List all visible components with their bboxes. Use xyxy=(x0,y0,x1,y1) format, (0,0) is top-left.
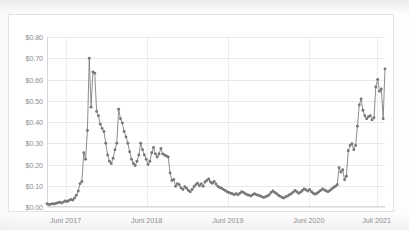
data-point xyxy=(373,116,376,119)
data-point xyxy=(82,151,85,154)
y-tick-label: $0.10 xyxy=(9,181,43,190)
y-tick-label: $0.70 xyxy=(9,54,43,63)
data-point xyxy=(134,164,137,167)
data-point xyxy=(139,142,142,145)
data-point xyxy=(358,104,361,107)
data-point xyxy=(80,180,83,183)
data-point xyxy=(119,117,122,120)
data-point xyxy=(178,183,181,186)
data-point xyxy=(354,144,357,147)
data-point xyxy=(196,182,199,185)
data-point xyxy=(356,125,359,128)
data-point xyxy=(169,172,172,175)
data-point xyxy=(350,142,353,145)
data-point xyxy=(152,146,155,149)
data-point xyxy=(207,178,210,181)
data-point xyxy=(99,123,102,126)
data-point xyxy=(384,67,387,70)
data-point xyxy=(181,188,184,191)
data-point xyxy=(369,114,372,117)
data-point xyxy=(126,142,129,145)
data-point xyxy=(88,57,91,60)
data-point xyxy=(145,158,148,161)
y-axis-labels: $0.80$0.70$0.60$0.50$0.40$0.30$0.20$0.10… xyxy=(9,37,43,207)
x-tick-label: Juni 2019 xyxy=(212,216,243,225)
x-tick-label: Juni 2020 xyxy=(293,216,324,225)
y-tick-label: $0.20 xyxy=(9,160,43,169)
data-point xyxy=(167,156,170,159)
data-point xyxy=(202,185,205,188)
data-point xyxy=(110,162,113,165)
data-point xyxy=(172,178,175,181)
data-point xyxy=(148,160,151,163)
chart-screenshot: $0.80$0.70$0.60$0.50$0.40$0.30$0.20$0.10… xyxy=(0,0,409,230)
data-point xyxy=(86,129,89,132)
data-point xyxy=(143,153,146,156)
data-point xyxy=(137,153,140,156)
data-point xyxy=(103,130,106,133)
data-point xyxy=(75,194,78,197)
data-point xyxy=(73,197,76,200)
y-tick-label: $0.40 xyxy=(9,118,43,127)
plot-area xyxy=(47,37,385,207)
data-point xyxy=(156,156,159,159)
chart-frame: $0.80$0.70$0.60$0.50$0.40$0.30$0.20$0.10… xyxy=(8,14,394,212)
x-tick-label: Juni 2017 xyxy=(50,216,81,225)
data-point xyxy=(130,158,133,161)
data-point xyxy=(343,178,346,181)
data-point xyxy=(141,148,144,151)
data-point xyxy=(191,188,194,191)
data-point xyxy=(213,180,216,183)
data-point xyxy=(154,152,157,155)
data-point xyxy=(123,130,126,133)
gridline-y xyxy=(47,207,385,208)
data-point xyxy=(159,147,162,150)
y-tick-label: $0.30 xyxy=(9,139,43,148)
x-tick-label: Juli 2021 xyxy=(362,216,391,225)
data-point xyxy=(362,109,365,112)
data-point xyxy=(363,114,366,117)
data-point xyxy=(97,114,100,117)
data-point xyxy=(382,117,385,120)
data-point xyxy=(84,158,87,161)
data-point xyxy=(114,148,117,151)
data-point xyxy=(90,106,93,109)
data-point xyxy=(380,88,383,91)
data-point xyxy=(345,175,348,178)
y-tick-label: $0.50 xyxy=(9,96,43,105)
data-point xyxy=(147,163,150,166)
data-point xyxy=(117,108,120,111)
y-tick-label: $0.00 xyxy=(9,203,43,212)
data-point xyxy=(150,151,153,154)
data-point xyxy=(341,168,344,171)
data-point xyxy=(374,85,377,88)
data-point xyxy=(101,127,104,130)
data-point xyxy=(360,98,363,101)
data-point xyxy=(115,142,118,145)
data-point xyxy=(77,190,80,193)
data-point xyxy=(174,185,177,188)
x-axis-labels: Juni 2017Juni 2018Juni 2019Juni 2020Juli… xyxy=(47,211,385,225)
data-point xyxy=(121,122,124,125)
data-point xyxy=(95,110,98,113)
y-tick-label: $0.60 xyxy=(9,75,43,84)
data-point xyxy=(338,166,341,169)
data-point xyxy=(352,148,355,151)
data-point xyxy=(136,160,139,163)
data-point xyxy=(376,78,379,81)
data-point xyxy=(106,153,109,156)
data-point xyxy=(104,142,107,145)
data-point xyxy=(347,149,350,152)
data-point xyxy=(93,72,96,75)
data-point xyxy=(112,157,115,160)
data-point xyxy=(125,135,128,138)
x-tick-label: Juni 2018 xyxy=(131,216,162,225)
y-tick-label: $0.80 xyxy=(9,33,43,42)
data-point xyxy=(336,183,339,186)
price-line-series xyxy=(47,37,385,207)
data-point xyxy=(128,150,131,153)
data-point xyxy=(158,152,161,155)
